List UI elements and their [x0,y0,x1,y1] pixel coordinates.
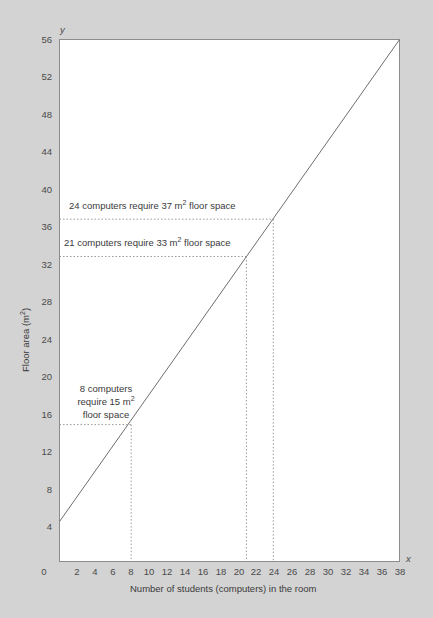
annotation-24-text: 24 computers require 37 m [69,200,183,211]
y-axis-title-suffix: ) [20,308,31,311]
annotation-8-line-1: 8 computers [80,383,132,394]
y-tick-52: 52 [28,71,52,82]
annotation-8-line-3: floor space [83,409,129,420]
y-tick-56: 56 [28,34,52,45]
annotation-21-computers: 21 computers require 33 m2 floor space [64,236,231,249]
x-tick-38: 38 [389,566,411,577]
chart-container: y x 56 52 48 44 40 36 32 28 24 20 16 12 … [0,0,433,618]
annotation-24-computers: 24 computers require 37 m2 floor space [69,199,236,212]
y-tick-4: 4 [28,521,52,532]
annotation-24-tail: floor space [186,200,235,211]
y-tick-32: 32 [28,259,52,270]
y-tick-40: 40 [28,184,52,195]
annotation-8-superscript: 2 [131,395,135,402]
y-tick-36: 36 [28,221,52,232]
y-tick-48: 48 [28,109,52,120]
y-axis-title-superscript: 2 [19,311,26,315]
y-axis-title: Floor area (m2) [20,308,31,372]
y-tick-16: 16 [28,409,52,420]
y-tick-44: 44 [28,146,52,157]
y-tick-8: 8 [28,484,52,495]
annotation-21-tail: floor space [181,237,230,248]
y-tick-20: 20 [28,371,52,382]
plot-area [59,39,400,562]
annotation-8-line-2: require 15 m [77,396,130,407]
y-axis-title-prefix: Floor area (m [20,315,31,372]
y-tick-28: 28 [28,296,52,307]
y-axis-letter: y [60,24,65,35]
x-tick-0: 0 [33,566,55,577]
annotation-8-computers: 8 computersrequire 15 m2floor space [64,382,148,421]
y-tick-12: 12 [28,446,52,457]
x-axis-letter: x [406,553,411,564]
y-tick-24: 24 [28,334,52,345]
annotation-21-text: 21 computers require 33 m [64,237,178,248]
x-axis-title: Number of students (computers) in the ro… [130,583,316,594]
